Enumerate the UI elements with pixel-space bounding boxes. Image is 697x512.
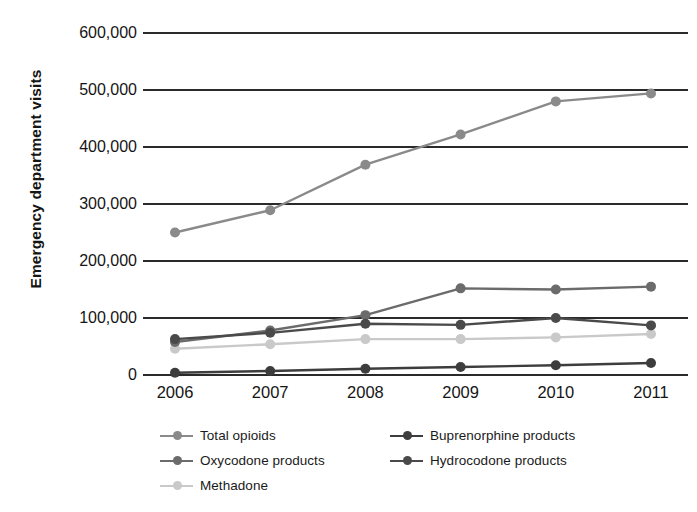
legend: Total opioidsBuprenorphine productsOxyco… bbox=[160, 423, 670, 498]
data-point bbox=[456, 362, 466, 372]
x-tick-label: 2007 bbox=[252, 383, 289, 402]
series-line bbox=[175, 93, 651, 232]
series-line bbox=[175, 363, 651, 373]
data-point bbox=[170, 368, 180, 378]
y-tick-label: 600,000 bbox=[79, 24, 137, 42]
y-tick-label: 300,000 bbox=[79, 195, 137, 213]
legend-marker-icon bbox=[160, 480, 193, 492]
legend-marker-icon bbox=[160, 455, 193, 467]
data-point bbox=[551, 96, 561, 106]
series-line bbox=[175, 334, 651, 349]
legend-label: Buprenorphine products bbox=[430, 428, 575, 443]
data-point bbox=[646, 358, 656, 368]
data-point bbox=[456, 320, 466, 330]
x-tick-label: 2011 bbox=[633, 383, 668, 402]
x-tick-label: 2009 bbox=[442, 383, 479, 402]
data-point bbox=[551, 285, 561, 295]
data-point bbox=[646, 329, 656, 339]
data-point bbox=[456, 283, 466, 293]
y-tick-label: 200,000 bbox=[79, 252, 137, 270]
data-point bbox=[170, 334, 180, 344]
data-point bbox=[265, 366, 275, 376]
legend-label: Methadone bbox=[200, 478, 268, 493]
data-point bbox=[646, 88, 656, 98]
data-point bbox=[551, 313, 561, 323]
data-point bbox=[646, 320, 656, 330]
x-tick-label: 2008 bbox=[347, 383, 384, 402]
data-point bbox=[170, 228, 180, 238]
legend-label: Total opioids bbox=[200, 428, 276, 443]
series-buprenorphine-products bbox=[170, 358, 656, 378]
legend-item-oxycodone-products[interactable]: Oxycodone products bbox=[160, 453, 390, 468]
data-point bbox=[265, 205, 275, 215]
data-point bbox=[360, 364, 370, 374]
data-point bbox=[360, 160, 370, 170]
x-tick-label: 2006 bbox=[157, 383, 194, 402]
y-tick-label: 100,000 bbox=[79, 309, 137, 327]
legend-item-methadone[interactable]: Methadone bbox=[160, 478, 390, 493]
legend-marker-icon bbox=[390, 455, 423, 467]
data-point bbox=[360, 334, 370, 344]
data-point bbox=[456, 334, 466, 344]
y-tick-label: 400,000 bbox=[79, 138, 137, 156]
legend-item-buprenorphine-products[interactable]: Buprenorphine products bbox=[390, 428, 660, 443]
legend-item-hydrocodone-products[interactable]: Hydrocodone products bbox=[390, 453, 660, 468]
legend-row: Methadone bbox=[160, 473, 670, 498]
y-tick-label: 500,000 bbox=[79, 81, 137, 99]
data-point bbox=[646, 282, 656, 292]
legend-row: Total opioidsBuprenorphine products bbox=[160, 423, 670, 448]
data-point bbox=[360, 310, 370, 320]
legend-label: Oxycodone products bbox=[200, 453, 325, 468]
chart-figure: Emergency department visits 600,000500,0… bbox=[0, 0, 697, 512]
series-total-opioids bbox=[170, 88, 656, 237]
x-tick-label: 2010 bbox=[537, 383, 574, 402]
legend-row: Oxycodone productsHydrocodone products bbox=[160, 448, 670, 473]
data-point bbox=[360, 319, 370, 329]
legend-marker-icon bbox=[160, 430, 193, 442]
data-point bbox=[265, 328, 275, 338]
legend-item-total-opioids[interactable]: Total opioids bbox=[160, 428, 390, 443]
data-point bbox=[551, 360, 561, 370]
y-axis-tick-labels: 600,000500,000400,000300,000200,000100,0… bbox=[20, 0, 137, 512]
data-point bbox=[551, 332, 561, 342]
data-point bbox=[265, 339, 275, 349]
data-point bbox=[456, 129, 466, 139]
legend-label: Hydrocodone products bbox=[430, 453, 567, 468]
y-tick-label: 0 bbox=[128, 366, 137, 384]
legend-marker-icon bbox=[390, 430, 423, 442]
